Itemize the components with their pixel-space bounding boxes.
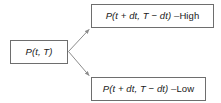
node-high: P(t + dt, T − dt) – High — [91, 4, 214, 28]
edge-source-to-low — [69, 52, 90, 76]
node-low-suffix: Low — [176, 84, 194, 94]
node-high-suffix: High — [179, 11, 199, 21]
node-low-label: P(t + dt, T − dt) – — [103, 84, 177, 94]
node-source: P(t, T) — [10, 40, 68, 64]
edge-source-to-high — [69, 30, 90, 52]
node-low: P(t + dt, T − dt) – Low — [91, 77, 206, 101]
node-high-label: P(t + dt, T − dt) – — [106, 11, 180, 21]
node-source-label: P(t, T) — [25, 47, 52, 57]
diagram-canvas: P(t, T) P(t + dt, T − dt) – High P(t + d… — [0, 0, 221, 103]
